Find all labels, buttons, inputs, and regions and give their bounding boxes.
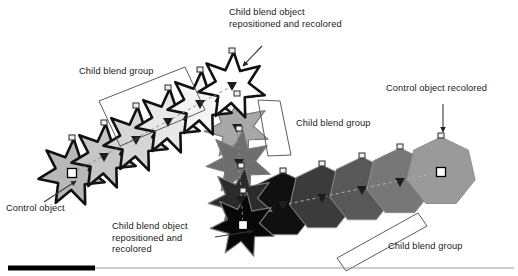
callout-child-blend-group-left: Child blend group — [79, 66, 183, 78]
control-point-square-marker — [68, 169, 77, 178]
callout-child-blend-group-mid: Child blend group — [296, 118, 400, 130]
shape-anchor-nub — [69, 135, 75, 140]
shape-anchor-nub — [359, 153, 365, 158]
blend-diagram-svg — [0, 0, 518, 276]
shape-anchor-nub — [397, 144, 403, 149]
shape-anchor-nub — [438, 133, 444, 138]
shape-anchor-nub — [165, 85, 171, 90]
control-point-square-marker — [437, 168, 446, 177]
shape-anchor-nub — [229, 48, 235, 53]
shape-anchor-nub — [101, 120, 107, 125]
shape-anchor-nub — [238, 163, 244, 168]
callout-child-blend-object-top: Child blend object repositioned and reco… — [229, 7, 349, 30]
figure-canvas: Child blend object repositioned and reco… — [0, 0, 518, 276]
callout-control-object-recolored: Control object recolored — [386, 83, 514, 95]
shape-anchor-nub — [234, 91, 240, 96]
shape-anchor-nub — [236, 126, 242, 131]
shape-anchor-nub — [319, 161, 325, 166]
shape-anchor-nub — [197, 67, 203, 72]
control-point-square-marker — [239, 221, 248, 230]
shape-anchor-nub — [133, 103, 139, 108]
shape-anchor-nub — [240, 188, 246, 193]
leader-child-blend-object-top — [243, 46, 262, 66]
callout-control-object: Control object — [6, 203, 98, 215]
shape-anchor-nub — [280, 168, 286, 173]
callout-child-blend-object-bottom: Child blend object repositioned and reco… — [112, 221, 222, 256]
callout-child-blend-group-bottom: Child blend group — [388, 241, 492, 253]
